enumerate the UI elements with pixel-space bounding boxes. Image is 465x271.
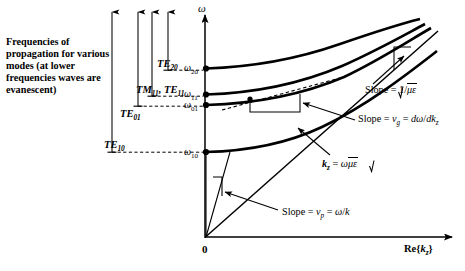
omega10-sym: ω [184, 146, 191, 157]
mode-te20-sub: 20 [170, 63, 177, 72]
mode-tm11-sub: 11 [152, 89, 159, 98]
annotation-group-velocity: Slope = vg = dω/dkz [358, 113, 439, 128]
mode-te10-text: TE [104, 139, 117, 150]
vg-eq: = [400, 113, 411, 124]
dispersion-diagram-figure: Frequencies of propagation for various m… [0, 0, 465, 271]
leader-slope-vp [225, 192, 278, 210]
vg-prefix: Slope = [358, 113, 392, 124]
radical-sign-2 [369, 159, 379, 173]
mode-label-te10: TE10 [104, 139, 125, 154]
x-axis-prefix: Re{ [404, 243, 420, 254]
mode-te01-text: TE [120, 108, 133, 119]
figure-caption: Frequencies of propagation for various m… [6, 36, 110, 96]
origin-label: 0 [202, 243, 208, 256]
mode-te20-text: TE [157, 58, 170, 69]
kz-radicand: με [348, 158, 357, 169]
radical-bar-1: με [407, 83, 417, 95]
mode-label-te01: TE01 [120, 108, 141, 123]
annotation-leaders [225, 56, 404, 210]
vp-eq: = [324, 206, 335, 217]
light-slope-radicand: με [407, 84, 416, 95]
mode-te01-sub: 01 [133, 113, 140, 122]
mode-te11-text: , TE [159, 84, 178, 95]
tangent-point [247, 96, 252, 101]
mode-label-te20: TE20 [157, 58, 178, 73]
omega-label-10: ω10 [184, 146, 198, 160]
omega11-sym: ω [184, 88, 191, 99]
y-axis-label: ω [198, 2, 206, 15]
omega20-sub: 20 [191, 68, 198, 76]
mode-tm11-text: TM [136, 84, 152, 95]
radical-bar-2: με [348, 157, 358, 169]
tangent-line-vg [222, 78, 340, 110]
omega10-sub: 10 [191, 152, 198, 160]
omega-label-01: ω01 [184, 99, 198, 113]
omega20-sym: ω [184, 62, 191, 73]
phase-velocity-triangle [206, 152, 230, 237]
mode-te10-sub: 10 [117, 144, 124, 153]
annotation-kz-line: kz = ωμε [322, 158, 358, 173]
annotation-light-line-slope: Slope = 1/με [365, 84, 417, 96]
mode-label-tm11-te11: TM11, TE11 [136, 84, 184, 99]
vp-prefix: Slope = [282, 206, 316, 217]
kz-eq: = [330, 158, 341, 169]
x-axis-label: Re{kz} [404, 243, 433, 258]
vp-k: k [345, 206, 350, 217]
mode-range-arrows [108, 12, 173, 152]
vg-k-sub: z [436, 119, 439, 127]
asymptote-slope-triangle [394, 47, 411, 70]
omega-label-20: ω20 [184, 62, 198, 76]
kz-omega: ω [341, 158, 348, 169]
annotation-phase-velocity: Slope = vp = ω/k [282, 206, 350, 221]
cutoff-markers [203, 65, 209, 155]
radical-sign-1 [398, 85, 408, 99]
omega01-sym: ω [184, 99, 191, 110]
x-axis-suffix: } [429, 243, 433, 254]
omega01-sub: 01 [191, 105, 198, 113]
